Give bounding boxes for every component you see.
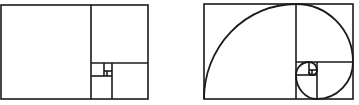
golden-ratio-diagram (0, 0, 359, 105)
outer-rectangle (204, 4, 353, 99)
golden-spiral (204, 4, 353, 99)
left-panel-golden-rectangle (1, 5, 148, 99)
outer-rectangle (1, 5, 148, 99)
right-panel-golden-spiral (204, 4, 353, 99)
